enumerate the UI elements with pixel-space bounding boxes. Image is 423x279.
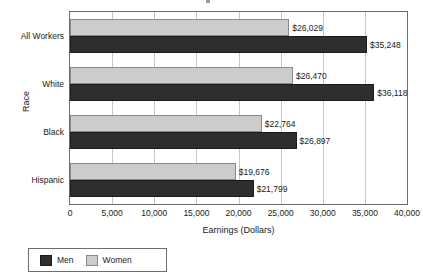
bar-men-black[interactable] — [70, 132, 297, 149]
y-axis-label-white: White — [0, 79, 64, 89]
chart-page: All WorkersWhiteBlackHispanic $26,029$35… — [0, 0, 423, 279]
legend-label-men: Men — [57, 255, 74, 265]
legend-item-women: Women — [86, 255, 132, 266]
x-axis-title: Earnings (Dollars) — [69, 225, 408, 236]
x-tick-5000: 5,000 — [101, 208, 122, 218]
x-tick-35000: 35,000 — [352, 208, 378, 218]
x-tick-40000: 40,000 — [394, 208, 420, 218]
value-label-men-all-workers: $35,248 — [370, 40, 401, 50]
value-label-men-black: $26,897 — [300, 136, 331, 146]
title-artifact — [206, 0, 210, 3]
bar-women-all-workers[interactable] — [70, 19, 289, 36]
x-tick-30000: 30,000 — [310, 208, 336, 218]
y-axis-title: Race — [21, 72, 32, 132]
x-tick-20000: 20,000 — [226, 208, 252, 218]
bar-women-hispanic[interactable] — [70, 163, 236, 180]
x-tick-0: 0 — [68, 208, 73, 218]
y-axis-label-hispanic: Hispanic — [0, 175, 64, 185]
bar-women-white[interactable] — [70, 67, 293, 84]
value-label-men-white: $36,118 — [377, 88, 407, 98]
value-label-men-hispanic: $21,799 — [257, 184, 288, 194]
legend-item-men: Men — [40, 255, 74, 266]
x-tick-25000: 25,000 — [268, 208, 294, 218]
y-axis-label-all-workers: All Workers — [0, 31, 64, 41]
legend-label-women: Women — [103, 255, 132, 265]
bar-men-all-workers[interactable] — [70, 36, 367, 53]
legend-swatch-women-icon — [86, 255, 98, 266]
bar-women-black[interactable] — [70, 115, 262, 132]
value-label-women-all-workers: $26,029 — [292, 23, 323, 33]
x-tick-15000: 15,000 — [183, 208, 209, 218]
legend-swatch-men-icon — [40, 255, 52, 266]
y-axis-label-black: Black — [0, 127, 64, 137]
value-label-women-black: $22,764 — [265, 119, 296, 129]
value-label-women-hispanic: $19,676 — [239, 167, 270, 177]
bar-men-hispanic[interactable] — [70, 180, 254, 197]
bar-men-white[interactable] — [70, 84, 374, 101]
chart-legend: Men Women — [28, 248, 167, 272]
value-label-women-white: $26,470 — [296, 71, 327, 81]
x-tick-10000: 10,000 — [141, 208, 167, 218]
